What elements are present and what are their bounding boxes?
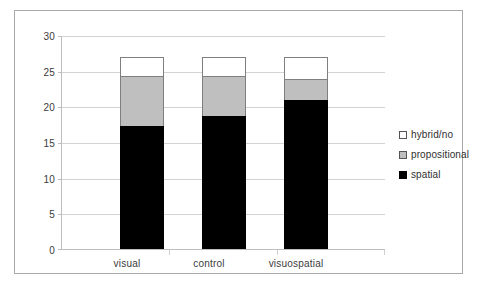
bar-segment-hybrid[interactable] [284,57,328,78]
y-axis-tick-mark [58,36,62,37]
y-axis-tick-label: 15 [43,138,55,149]
legend-label-hybrid: hybrid/no [411,129,453,140]
legend-label-propositional: propositional [411,149,469,160]
x-axis-tick-label-visuospatial: visuospatial [251,258,341,269]
legend-label-spatial: spatial [411,169,441,180]
x-axis-tick-mark [384,250,385,255]
x-axis-tick-mark [169,250,170,255]
y-axis-tick-mark [58,143,62,144]
bar-segment-hybrid[interactable] [202,57,246,76]
y-axis-tick-mark [58,107,62,108]
plot-area [61,36,385,250]
chart-frame: 30 25 20 15 10 5 0 [14,10,463,274]
y-axis-tick-label: 10 [43,173,55,184]
legend-swatch-spatial-icon [399,171,407,179]
y-axis-tick-label: 20 [43,102,55,113]
bar-segment-spatial[interactable] [284,100,328,249]
x-axis-tick-mark [277,250,278,255]
legend-item-propositional[interactable]: propositional [399,149,469,160]
bar-segment-propositional[interactable] [120,76,164,126]
x-axis-tick-label-visual: visual [87,258,167,269]
bar-visual[interactable] [120,57,164,249]
bar-visuospatial[interactable] [284,57,328,249]
bar-segment-spatial[interactable] [120,126,164,249]
bar-segment-hybrid[interactable] [120,57,164,76]
y-axis-tick-mark [58,72,62,73]
chart-figure: 30 25 20 15 10 5 0 [0,0,477,287]
y-axis-tick-label: 30 [43,31,55,42]
y-axis-tick-label: 25 [43,66,55,77]
bar-segment-spatial[interactable] [202,116,246,249]
bar-control[interactable] [202,57,246,249]
y-axis-tick-mark [58,249,62,250]
bar-segment-propositional[interactable] [284,79,328,100]
y-axis-tick-mark [58,179,62,180]
legend-swatch-propositional-icon [399,151,407,159]
y-axis-tick-label: 5 [49,209,55,220]
y-axis-tick-labels: 30 25 20 15 10 5 0 [15,36,55,250]
bar-segment-propositional[interactable] [202,76,246,115]
y-axis-tick-mark [58,214,62,215]
legend-item-hybrid[interactable]: hybrid/no [399,129,469,140]
y-axis-tick-label: 0 [49,245,55,256]
legend-item-spatial[interactable]: spatial [399,169,469,180]
legend-swatch-hybrid-icon [399,131,407,139]
chart-legend: hybrid/no propositional spatial [399,129,469,180]
gridline [62,36,385,37]
x-axis-tick-label-control: control [169,258,249,269]
